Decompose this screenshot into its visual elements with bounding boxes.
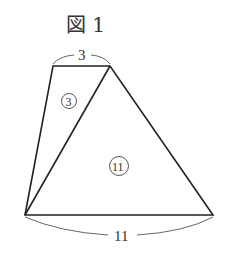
figure-title: 図 1 [66, 13, 105, 37]
bottom-length-label: 11 [114, 228, 128, 244]
top-brace-right [91, 55, 110, 64]
top-brace-left [53, 55, 74, 64]
large-area-label: 11 [112, 160, 124, 174]
trapezoid-outline [25, 66, 213, 215]
top-length-label: 3 [78, 47, 86, 63]
trapezoid-figure: 図 1 3 11 3 11 [0, 0, 231, 260]
diagonal-line [25, 66, 110, 215]
bottom-brace-left [25, 217, 108, 235]
bottom-brace-right [137, 217, 213, 235]
small-area-label: 3 [66, 95, 72, 109]
